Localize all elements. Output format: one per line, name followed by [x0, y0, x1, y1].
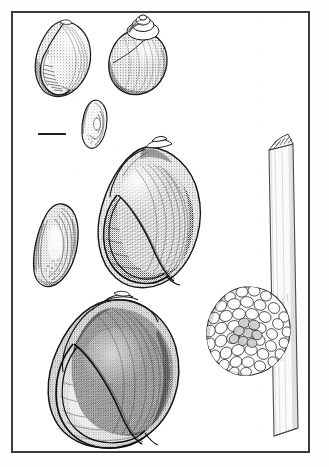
illustration-plate: [0, 0, 329, 467]
plate-frame: [11, 11, 310, 453]
plate-canvas: [13, 13, 308, 451]
figure-shell-small-dorsal: [101, 13, 175, 101]
scale-bar: [38, 133, 66, 135]
figure-operculum-large: [28, 198, 94, 296]
figure-shell-small-apertural: [30, 17, 100, 101]
figure-egg-mass: [196, 279, 304, 391]
figure-shell-largest-apertural: [38, 288, 194, 451]
figure-shell-large-apertural: [88, 135, 220, 301]
